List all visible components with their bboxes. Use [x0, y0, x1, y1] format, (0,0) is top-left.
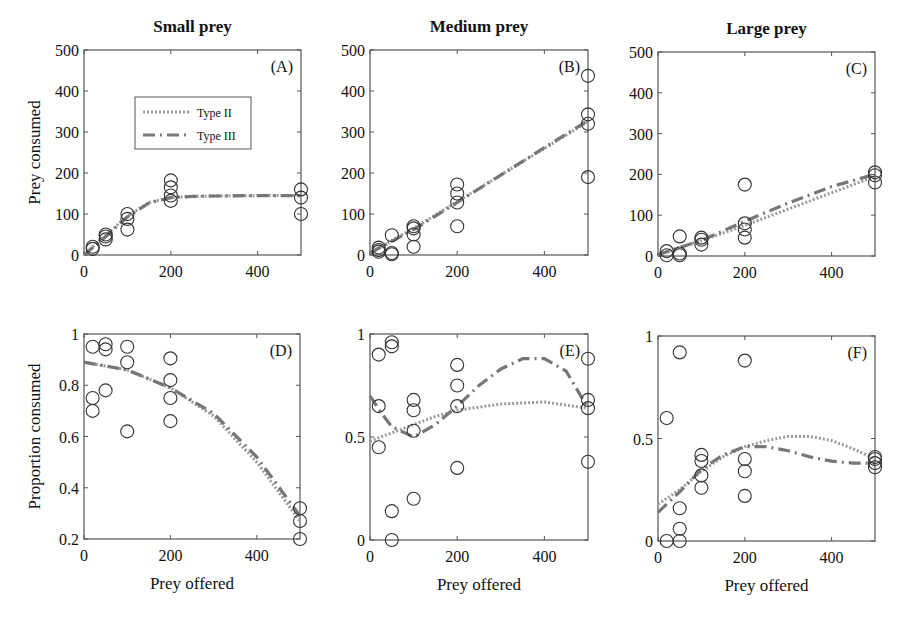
y-tick-label: 500: [341, 42, 365, 59]
type-iii-curve: [370, 121, 588, 253]
x-tick-label: 0: [80, 263, 88, 280]
type-iii-curve: [84, 362, 300, 516]
x-axis-label: Prey offered: [150, 574, 235, 593]
data-point: [738, 178, 751, 191]
panel-f: 020040000.51(F)Prey offered: [633, 328, 882, 595]
data-point: [164, 352, 177, 365]
y-tick-label: 200: [341, 165, 365, 182]
data-point: [407, 492, 420, 505]
y-tick-label: 400: [341, 83, 365, 100]
y-tick-label: 0: [357, 532, 365, 549]
y-tick-label: 200: [629, 166, 653, 183]
data-point: [121, 356, 134, 369]
y-tick-label: 0: [645, 533, 653, 550]
y-axis-label: Proportion consumed: [25, 363, 44, 509]
y-tick-label: 0: [71, 247, 79, 264]
data-point: [407, 424, 420, 437]
x-tick-label: 0: [366, 548, 374, 565]
x-tick-label: 0: [366, 263, 374, 280]
data-point: [385, 505, 398, 518]
x-axis-label: Prey offered: [724, 576, 809, 595]
y-tick-label: 1: [645, 328, 653, 345]
type-ii-curve: [658, 176, 875, 254]
y-tick-label: 1: [357, 326, 365, 343]
x-tick-label: 200: [733, 549, 757, 566]
data-point: [451, 220, 464, 233]
panel-label: (E): [560, 342, 580, 360]
x-tick-label: 200: [733, 264, 757, 281]
axes-frame: [84, 334, 300, 539]
data-point: [86, 392, 99, 405]
data-point: [673, 346, 686, 359]
panel-label: (C): [846, 60, 867, 78]
panel-title: Large prey: [726, 19, 807, 38]
y-tick-label: 0: [357, 247, 365, 264]
y-axis-label: Prey consumed: [25, 100, 44, 205]
y-tick-label: 0.5: [345, 429, 365, 446]
x-tick-label: 200: [159, 263, 183, 280]
y-tick-label: 0: [645, 248, 653, 265]
y-tick-label: 100: [341, 206, 365, 223]
data-point: [372, 441, 385, 454]
data-point: [86, 340, 99, 353]
panel-c: 02004000100200300400500(C)Large prey: [629, 19, 882, 281]
y-tick-label: 0.4: [59, 480, 79, 497]
data-point: [99, 384, 112, 397]
figure-container: 02004000100200300400500(A)Small preyPrey…: [0, 0, 897, 623]
y-tick-label: 500: [629, 44, 653, 61]
type-ii-curve: [658, 436, 875, 504]
data-point: [451, 379, 464, 392]
data-point: [121, 425, 134, 438]
panel-label: (D): [270, 342, 292, 360]
data-point: [660, 412, 673, 425]
data-point: [738, 489, 751, 502]
legend-item-label: Type III: [197, 129, 236, 143]
y-tick-label: 200: [55, 165, 79, 182]
y-tick-label: 0.6: [59, 429, 79, 446]
data-point: [451, 358, 464, 371]
data-point: [407, 404, 420, 417]
axes-frame: [658, 336, 875, 541]
data-point: [385, 248, 398, 261]
data-point: [738, 453, 751, 466]
panel-label: (B): [559, 58, 580, 76]
data-point: [121, 340, 134, 353]
y-tick-label: 400: [629, 85, 653, 102]
y-tick-label: 0.8: [59, 377, 79, 394]
y-tick-label: 400: [55, 83, 79, 100]
data-point: [738, 231, 751, 244]
data-point: [164, 374, 177, 387]
x-tick-label: 200: [445, 548, 469, 565]
x-tick-label: 200: [445, 263, 469, 280]
data-point: [673, 502, 686, 515]
y-tick-label: 0.5: [633, 431, 653, 448]
panel-d: 02004000.20.40.60.81(D)Prey offeredPropo…: [25, 326, 307, 593]
data-point: [673, 230, 686, 243]
x-tick-label: 0: [654, 264, 662, 281]
type-ii-curve: [370, 402, 588, 441]
y-tick-label: 1: [71, 326, 79, 343]
data-point: [407, 393, 420, 406]
x-tick-label: 400: [532, 263, 556, 280]
y-tick-label: 300: [341, 124, 365, 141]
panel-label: (A): [271, 58, 293, 76]
legend-item-label: Type II: [197, 106, 232, 120]
legend: Type IIType III: [135, 97, 251, 149]
data-point: [164, 392, 177, 405]
data-point: [86, 404, 99, 417]
panel-title: Small prey: [153, 17, 232, 36]
y-tick-label: 0.2: [59, 531, 79, 548]
x-tick-label: 400: [532, 548, 556, 565]
x-tick-label: 400: [246, 263, 270, 280]
type-ii-curve: [84, 362, 300, 521]
panel-e: 020040000.51(E)Prey offered: [345, 326, 595, 594]
x-tick-label: 0: [80, 547, 88, 564]
y-tick-label: 500: [55, 42, 79, 59]
axes-frame: [370, 334, 588, 540]
panel-label: (F): [847, 344, 867, 362]
panel-b: 02004000100200300400500(B)Medium prey: [341, 17, 595, 280]
panel-title: Medium prey: [430, 17, 529, 36]
x-tick-label: 400: [820, 549, 844, 566]
y-tick-label: 300: [629, 126, 653, 143]
axes-frame: [370, 50, 588, 255]
